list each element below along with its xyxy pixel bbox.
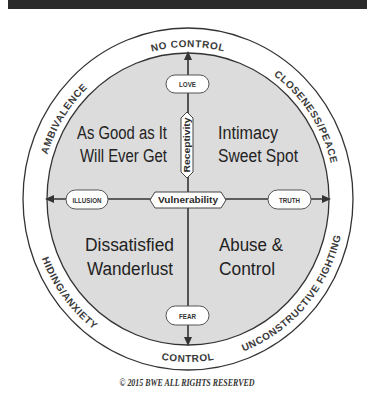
receptivity-badge: Receptivity — [181, 112, 193, 178]
fear-label: FEAR — [179, 312, 196, 321]
copyright-notice: © 2015 BWE ALL RIGHTS RESERVED — [120, 376, 255, 388]
love-pill: LOVE — [166, 75, 209, 93]
quadrant-top-right-line1: Intimacy — [218, 123, 278, 143]
quadrant-top-left-line2: Will Ever Get — [80, 146, 167, 166]
truth-label: TRUTH — [279, 196, 300, 205]
diagram-canvas: NO CONTROL AMBIVALENCE CLOSENESS/PEACE C… — [0, 0, 372, 403]
illusion-label: ILLUSION — [73, 196, 102, 205]
quadrant-bottom-left-line1: Dissatisfied — [85, 235, 174, 255]
quadrant-bottom-right-line2: Control — [219, 259, 275, 279]
quadrant-top-left-line1: As Good as It — [77, 123, 167, 143]
relationship-quadrant-diagram: NO CONTROL AMBIVALENCE CLOSENESS/PEACE C… — [0, 0, 372, 403]
vulnerability-label: Vulnerability — [158, 195, 218, 205]
header-bar — [8, 0, 367, 9]
quadrant-top-right-line2: Sweet Spot — [218, 146, 298, 166]
illusion-pill: ILLUSION — [66, 190, 108, 209]
receptivity-label: Receptivity — [182, 118, 192, 173]
love-label: LOVE — [179, 80, 197, 89]
quadrant-bottom-left-line2: Wanderlust — [87, 259, 173, 279]
truth-pill: TRUTH — [268, 190, 311, 209]
vulnerability-badge: Vulnerability — [150, 192, 226, 208]
quadrant-bottom-right-line1: Abuse & — [219, 235, 283, 255]
fear-pill: FEAR — [166, 306, 209, 325]
